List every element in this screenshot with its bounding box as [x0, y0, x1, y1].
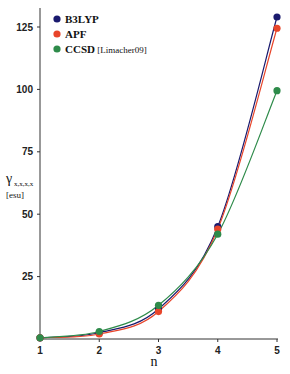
- x-tick-label: 1: [37, 345, 43, 356]
- legend-label-apf: APF: [65, 28, 87, 40]
- y-axis-label-unit: [esu]: [6, 190, 24, 200]
- axes: [40, 8, 278, 339]
- series-line-b3lyp: [40, 17, 277, 338]
- series-line-ccsd: [40, 91, 277, 338]
- y-axis-label-sub: x,x,x,x: [14, 180, 34, 188]
- legend-marker-apf: [53, 30, 60, 37]
- y-tick-label: 125: [16, 22, 33, 33]
- chart: 255075100125 12345 B3LYPAPFCCSD [Limache…: [0, 0, 290, 374]
- data-point-ccsd: [96, 328, 103, 335]
- legend-label-b3lyp: B3LYP: [65, 13, 99, 25]
- data-point-b3lyp: [273, 13, 280, 20]
- x-axis-label: n: [151, 354, 158, 369]
- y-tick-label: 25: [22, 271, 34, 282]
- legend: B3LYPAPFCCSD [Limacher09]: [53, 13, 146, 55]
- y-ticks: 255075100125: [16, 22, 40, 283]
- x-tick-label: 5: [274, 345, 280, 356]
- y-axis-label: γ x,x,x,x [esu]: [5, 171, 34, 200]
- series-lines: [40, 17, 277, 338]
- data-point-apf: [155, 308, 162, 315]
- y-tick-label: 75: [22, 146, 34, 157]
- x-tick-label: 2: [96, 345, 102, 356]
- data-point-ccsd: [214, 231, 221, 238]
- data-point-ccsd: [155, 302, 162, 309]
- legend-marker-b3lyp: [53, 15, 60, 22]
- y-axis-label-main: γ: [5, 171, 12, 186]
- legend-label-ccsd: CCSD [Limacher09]: [65, 43, 147, 55]
- x-ticks: 12345: [37, 339, 280, 356]
- legend-marker-ccsd: [53, 45, 60, 52]
- data-point-ccsd: [36, 334, 43, 341]
- data-point-ccsd: [273, 87, 280, 94]
- y-tick-label: 100: [16, 84, 33, 95]
- series-points: [36, 13, 280, 341]
- data-point-apf: [273, 25, 280, 32]
- y-tick-label: 50: [22, 209, 34, 220]
- x-tick-label: 4: [215, 345, 221, 356]
